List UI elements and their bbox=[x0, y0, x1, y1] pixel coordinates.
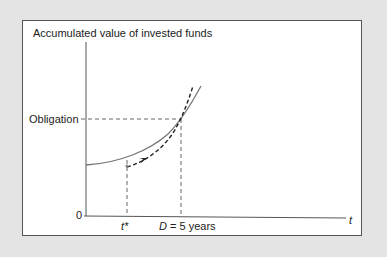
duration-var: D bbox=[159, 220, 167, 232]
accumulated-value-curve bbox=[86, 86, 201, 165]
duration-label: D = 5 years bbox=[159, 220, 216, 232]
t-star-label: t* bbox=[121, 220, 129, 232]
origin-label: 0 bbox=[76, 209, 82, 221]
obligation-label: Obligation bbox=[29, 113, 79, 125]
t-star-marker bbox=[125, 164, 128, 167]
x-axis-label: t bbox=[349, 214, 353, 226]
shifted-value-curve bbox=[127, 86, 193, 167]
duration-value: = 5 years bbox=[167, 220, 216, 232]
y-axis-title: Accumulated value of invested funds bbox=[33, 27, 213, 39]
x-axis bbox=[84, 216, 346, 218]
immunization-diagram: Accumulated value of invested funds 0 t … bbox=[0, 0, 387, 257]
